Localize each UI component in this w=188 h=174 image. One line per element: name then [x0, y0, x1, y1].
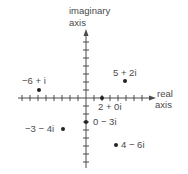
- label-0-minus-3i: 0 − 3i: [93, 116, 117, 127]
- real-axis-label-line1: real: [157, 88, 173, 99]
- real-axis-label-line2: axis: [155, 99, 172, 110]
- label-neg3-minus-4i: −3 − 4i: [25, 123, 54, 134]
- imaginary-axis-label-line1: imaginary: [69, 5, 110, 16]
- point-0-minus-3i: [84, 120, 88, 124]
- label-2-plus-0i: 2 + 0i: [98, 101, 122, 112]
- complex-plane-diagram: imaginary axis real axis −6 + i 5 + 2i 2…: [0, 0, 188, 174]
- imaginary-axis-label-line2: axis: [69, 17, 86, 28]
- label-4-minus-6i: 4 − 6i: [121, 139, 145, 150]
- label-neg6-plus-i: −6 + i: [22, 75, 46, 86]
- point-2-plus-0i: [100, 96, 104, 100]
- point-neg6-plus-i: [37, 88, 41, 92]
- point-4-minus-6i: [114, 143, 118, 147]
- point-neg3-minus-4i: [61, 127, 65, 131]
- label-5-plus-2i: 5 + 2i: [113, 67, 137, 78]
- point-5-plus-2i: [123, 79, 127, 83]
